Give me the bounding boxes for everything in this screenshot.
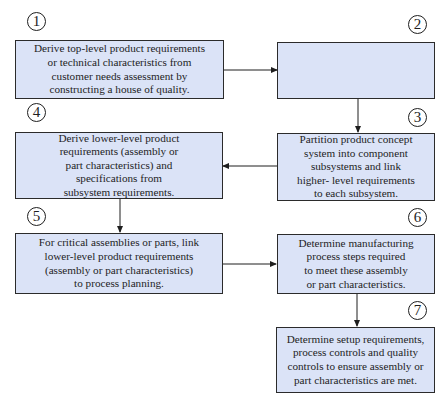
step-box-6: Determine manufacturing process steps re… [277,234,435,294]
step-text: For critical assemblies or parts, link l… [39,236,199,290]
step-text: Determine manufacturing process steps re… [298,237,413,291]
step-text: Partition product concept system into co… [297,133,415,201]
step-number-label: 2 [414,17,422,32]
step-number-label: 4 [33,105,41,120]
step-box-2 [277,42,435,99]
step-text: Determine setup requirements, process co… [287,333,425,387]
step-number-label: 3 [414,110,422,125]
step-number-5: 5 [27,207,46,226]
step-box-5: For critical assemblies or parts, link l… [15,233,223,294]
step-text: Derive top-level product requirements or… [34,42,205,96]
step-box-1: Derive top-level product requirements or… [15,40,224,99]
step-number-7: 7 [408,301,427,320]
step-box-4: Derive lower-level product requirements … [15,132,223,199]
step-number-label: 7 [414,303,422,318]
step-box-7: Determine setup requirements, process co… [276,327,435,393]
step-box-3: Partition product concept system into co… [277,133,435,201]
step-text: Derive lower-level product requirements … [59,132,180,200]
step-number-label: 1 [33,14,41,29]
step-number-6: 6 [408,208,427,227]
step-number-label: 6 [414,210,422,225]
step-number-1: 1 [27,12,46,31]
step-number-3: 3 [408,108,427,127]
step-number-label: 5 [33,209,41,224]
step-number-4: 4 [27,103,46,122]
step-number-2: 2 [408,15,427,34]
